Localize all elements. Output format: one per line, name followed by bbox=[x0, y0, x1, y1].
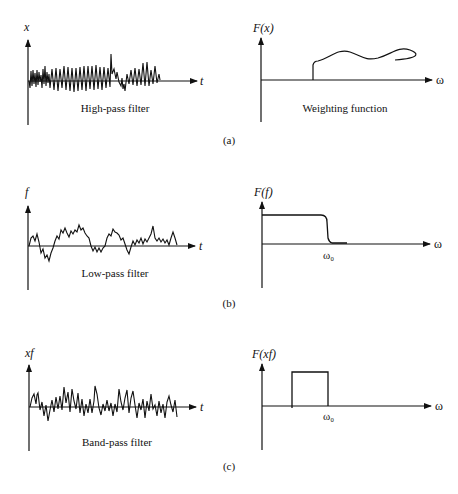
panel-caption-b: (b) bbox=[223, 297, 236, 310]
plot-title: Weighting function bbox=[303, 102, 388, 114]
panel-c-time-plot: xf t Band-pass filter bbox=[24, 346, 204, 451]
plot-title: Low-pass filter bbox=[82, 267, 149, 279]
y-axis-label: F(xf) bbox=[251, 347, 276, 361]
t-axis-label: t bbox=[200, 400, 204, 414]
omega-axis-label: ω bbox=[436, 73, 444, 87]
weighting-curve bbox=[313, 49, 416, 80]
filter-figure: x t High-pass filter F(x) ω Weighting fu… bbox=[0, 0, 458, 494]
y-axis-label: x bbox=[23, 20, 30, 34]
y-axis-label: F(f) bbox=[253, 185, 273, 199]
high-pass-signal bbox=[29, 54, 160, 92]
panel-a-time-plot: x t High-pass filter bbox=[23, 20, 204, 125]
omega-axis-label: ω bbox=[435, 399, 443, 413]
t-axis-label: t bbox=[200, 74, 204, 88]
panel-a-freq-plot: F(x) ω Weighting function bbox=[252, 21, 444, 122]
y-axis-label: F(x) bbox=[252, 21, 274, 35]
panel-b-time-plot: f t Low-pass filter bbox=[25, 185, 203, 290]
y-axis-label: xf bbox=[24, 346, 35, 360]
cutoff-label: ω₀ bbox=[323, 249, 334, 261]
low-pass-signal bbox=[29, 225, 177, 261]
plot-title: High-pass filter bbox=[81, 102, 150, 114]
band-pass-response bbox=[292, 372, 328, 408]
cutoff-label: ω₀ bbox=[323, 410, 334, 422]
t-axis-label: t bbox=[199, 239, 203, 253]
plot-title: Band-pass filter bbox=[82, 436, 152, 448]
band-pass-signal bbox=[30, 386, 177, 421]
omega-axis-label: ω bbox=[434, 237, 442, 251]
panel-caption-a: (a) bbox=[223, 134, 236, 147]
low-pass-response bbox=[262, 215, 347, 243]
panel-b-freq-plot: F(f) ω ω₀ bbox=[253, 185, 442, 288]
panel-c-freq-plot: F(xf) ω ω₀ bbox=[251, 347, 443, 450]
y-axis-label: f bbox=[25, 185, 30, 199]
panel-caption-c: (c) bbox=[223, 460, 236, 473]
